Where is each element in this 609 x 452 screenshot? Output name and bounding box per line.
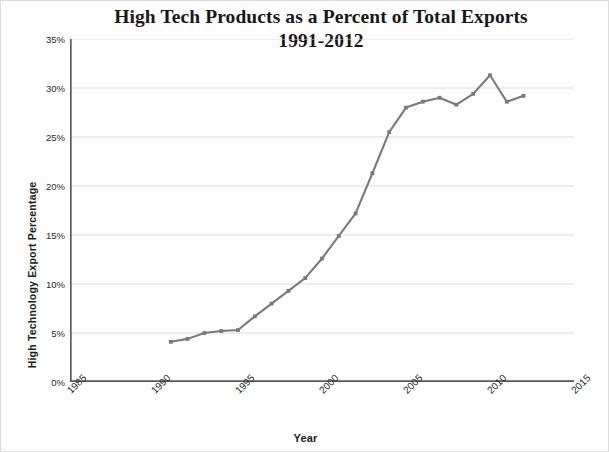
- data-point: [387, 130, 391, 134]
- y-axis-tick-label: 35%: [31, 34, 65, 45]
- chart-figure: High Tech Products as a Percent of Total…: [0, 0, 609, 452]
- x-axis-tick-label: 1985: [65, 372, 89, 396]
- data-point: [236, 328, 240, 332]
- data-point: [219, 329, 223, 333]
- y-axis-tick-label: 20%: [31, 181, 65, 192]
- data-point: [270, 302, 274, 306]
- data-point: [337, 234, 341, 238]
- y-axis-tick-label: 10%: [31, 279, 65, 290]
- data-point: [354, 212, 358, 216]
- data-point: [371, 171, 375, 175]
- axis-lines: [70, 39, 574, 382]
- data-point: [505, 100, 509, 104]
- data-point: [186, 337, 190, 341]
- data-point-markers: [169, 73, 526, 343]
- data-point: [320, 257, 324, 261]
- x-axis-tick-labels: Year 1985199019952000200520102015: [1, 382, 609, 452]
- data-point: [169, 340, 173, 344]
- data-point: [287, 289, 291, 293]
- y-axis-tick-label: 5%: [31, 328, 65, 339]
- y-axis-tick-label: 25%: [31, 132, 65, 143]
- x-axis-title: Year: [1, 432, 609, 444]
- chart-canvas: [70, 39, 574, 382]
- data-point: [421, 100, 425, 104]
- gridlines: [70, 39, 574, 333]
- data-point: [522, 94, 526, 98]
- y-axis-tick-label: 30%: [31, 83, 65, 94]
- data-line-series-1: [171, 75, 524, 342]
- data-point: [404, 106, 408, 110]
- data-point: [303, 276, 307, 280]
- plot-area: [70, 39, 574, 382]
- data-point: [471, 92, 475, 96]
- data-point: [438, 96, 442, 100]
- y-axis-tick-label: 15%: [31, 230, 65, 241]
- data-point: [203, 331, 207, 335]
- data-point: [455, 103, 459, 107]
- data-point: [488, 73, 492, 77]
- data-point: [253, 314, 257, 318]
- chart-title-line1: High Tech Products as a Percent of Total…: [114, 6, 528, 27]
